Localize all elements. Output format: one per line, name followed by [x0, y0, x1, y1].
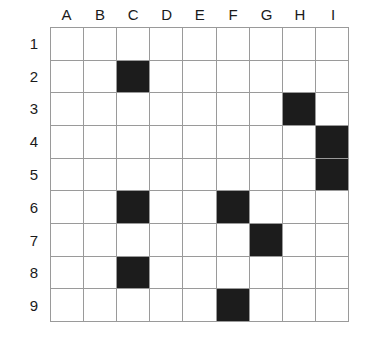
row-label-9: 9: [22, 289, 46, 322]
grid-cell-c7[interactable]: [117, 223, 150, 256]
grid-cell-g9[interactable]: [249, 289, 282, 322]
grid-cell-b1[interactable]: [84, 28, 117, 61]
grid-cell-e4[interactable]: [183, 125, 216, 158]
grid-cell-d2[interactable]: [150, 60, 183, 93]
row-label-4: 4: [22, 125, 46, 158]
grid-cell-c2[interactable]: [117, 60, 150, 93]
grid-cell-b8[interactable]: [84, 256, 117, 289]
grid-cell-f8[interactable]: [216, 256, 249, 289]
grid-cell-g1[interactable]: [249, 28, 282, 61]
grid-cell-i6[interactable]: [315, 191, 348, 224]
grid-cell-c5[interactable]: [117, 158, 150, 191]
grid-cell-h7[interactable]: [282, 223, 315, 256]
grid-cell-e1[interactable]: [183, 28, 216, 61]
grid-cell-i1[interactable]: [315, 28, 348, 61]
grid-cell-f3[interactable]: [216, 93, 249, 126]
column-label-f: F: [217, 5, 250, 25]
grid-cell-f9[interactable]: [216, 289, 249, 322]
column-label-g: G: [250, 5, 283, 25]
grid-cell-b3[interactable]: [84, 93, 117, 126]
grid-body: [51, 28, 349, 322]
grid-cell-d6[interactable]: [150, 191, 183, 224]
grid-cell-a8[interactable]: [51, 256, 84, 289]
grid-cell-g4[interactable]: [249, 125, 282, 158]
grid-cell-a9[interactable]: [51, 289, 84, 322]
grid-cell-i9[interactable]: [315, 289, 348, 322]
grid-cell-c6[interactable]: [117, 191, 150, 224]
grid-cell-e8[interactable]: [183, 256, 216, 289]
grid-cell-h2[interactable]: [282, 60, 315, 93]
grid-cell-f4[interactable]: [216, 125, 249, 158]
grid-cell-g7[interactable]: [249, 223, 282, 256]
grid-cell-i8[interactable]: [315, 256, 348, 289]
grid-cell-d5[interactable]: [150, 158, 183, 191]
grid-cell-f5[interactable]: [216, 158, 249, 191]
grid-cell-e9[interactable]: [183, 289, 216, 322]
grid-cell-g5[interactable]: [249, 158, 282, 191]
column-label-d: D: [150, 5, 183, 25]
grid-cell-c3[interactable]: [117, 93, 150, 126]
grid-cell-a1[interactable]: [51, 28, 84, 61]
grid-cell-d1[interactable]: [150, 28, 183, 61]
grid-cell-e6[interactable]: [183, 191, 216, 224]
grid-cell-i5[interactable]: [315, 158, 348, 191]
grid-cell-a3[interactable]: [51, 93, 84, 126]
grid-cell-e7[interactable]: [183, 223, 216, 256]
grid-cell-d9[interactable]: [150, 289, 183, 322]
grid-cell-e5[interactable]: [183, 158, 216, 191]
grid-cell-c9[interactable]: [117, 289, 150, 322]
grid-cell-f2[interactable]: [216, 60, 249, 93]
grid-cell-b7[interactable]: [84, 223, 117, 256]
row-label-3: 3: [22, 93, 46, 126]
grid-cell-c8[interactable]: [117, 256, 150, 289]
grid-cell-g8[interactable]: [249, 256, 282, 289]
row-label-7: 7: [22, 224, 46, 257]
grid-cell-i2[interactable]: [315, 60, 348, 93]
grid-cell-d8[interactable]: [150, 256, 183, 289]
grid-cell-i3[interactable]: [315, 93, 348, 126]
grid-cell-h6[interactable]: [282, 191, 315, 224]
grid-cell-b2[interactable]: [84, 60, 117, 93]
grid-row: [51, 158, 349, 191]
grid-cell-h3[interactable]: [282, 93, 315, 126]
grid-cell-h9[interactable]: [282, 289, 315, 322]
grid-cell-a2[interactable]: [51, 60, 84, 93]
grid-cell-d4[interactable]: [150, 125, 183, 158]
grid-cell-a5[interactable]: [51, 158, 84, 191]
grid-table: [50, 27, 349, 322]
grid-cell-e2[interactable]: [183, 60, 216, 93]
grid-row: [51, 191, 349, 224]
grid-cell-f1[interactable]: [216, 28, 249, 61]
grid-cell-i7[interactable]: [315, 223, 348, 256]
grid-cell-e3[interactable]: [183, 93, 216, 126]
grid-cell-a7[interactable]: [51, 223, 84, 256]
grid-cell-b4[interactable]: [84, 125, 117, 158]
grid-cell-c1[interactable]: [117, 28, 150, 61]
grid-cell-h1[interactable]: [282, 28, 315, 61]
grid-cell-f6[interactable]: [216, 191, 249, 224]
grid-cell-b6[interactable]: [84, 191, 117, 224]
row-label-5: 5: [22, 158, 46, 191]
column-label-c: C: [117, 5, 150, 25]
grid-cell-h5[interactable]: [282, 158, 315, 191]
grid-cell-h8[interactable]: [282, 256, 315, 289]
grid-cell-h4[interactable]: [282, 125, 315, 158]
grid-row: [51, 93, 349, 126]
grid-cell-g6[interactable]: [249, 191, 282, 224]
grid-cell-i4[interactable]: [315, 125, 348, 158]
grid-cell-d3[interactable]: [150, 93, 183, 126]
grid-cell-a6[interactable]: [51, 191, 84, 224]
grid-figure: ABCDEFGHI 123456789: [0, 0, 367, 350]
grid-row: [51, 28, 349, 61]
grid-cell-b5[interactable]: [84, 158, 117, 191]
grid-cell-g3[interactable]: [249, 93, 282, 126]
row-label-2: 2: [22, 60, 46, 93]
grid-cell-d7[interactable]: [150, 223, 183, 256]
grid-cell-f7[interactable]: [216, 223, 249, 256]
grid-cell-a4[interactable]: [51, 125, 84, 158]
grid-cell-c4[interactable]: [117, 125, 150, 158]
grid-row: [51, 223, 349, 256]
grid-cell-b9[interactable]: [84, 289, 117, 322]
grid-cell-g2[interactable]: [249, 60, 282, 93]
row-header-column: 123456789: [22, 27, 46, 322]
